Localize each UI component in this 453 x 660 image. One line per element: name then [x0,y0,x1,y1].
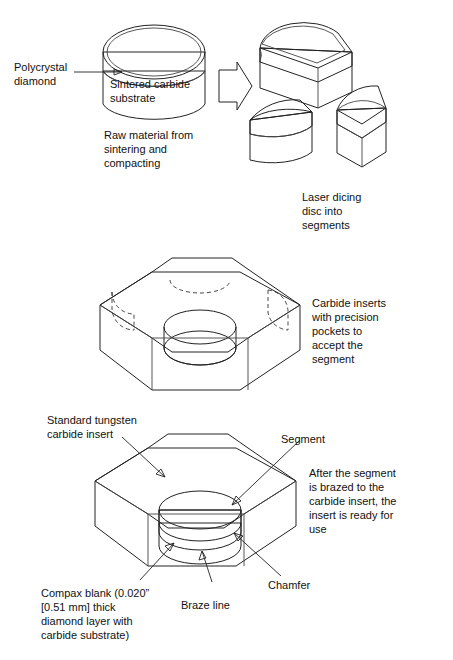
insert-pocket-wall [164,327,236,365]
label-polycrystal-diamond: Polycrystal diamond [14,60,98,88]
carbide-insert-with-pocket [100,258,300,390]
segment-left-top-face [250,100,312,120]
label-chamfer: Chamfer [268,578,338,592]
process-arrow-icon [219,62,252,110]
label-braze-line: Braze line [181,598,261,612]
segment-left-diamond-band [250,112,312,137]
label-compax-blank: Compax blank (0.020” [0.51 mm] thick dia… [41,586,181,642]
segment-left-divider [250,126,312,137]
segment-right-divider [337,122,386,138]
segment-back-top-face [260,23,352,68]
label-carbide-inserts: Carbide inserts with precision pockets t… [312,296,422,366]
leader-chamfer [234,533,281,576]
insert-hidden-pocket-right [268,290,288,330]
brazed-insert-body [95,448,296,566]
diced-segment-back [260,23,352,108]
label-sintered-carbide-substrate: Sintered carbide substrate [110,77,210,105]
brazed-insert [95,434,296,566]
process-diagram: Polycrystal diamond Sintered carbide sub… [0,0,453,660]
leader-compax-blank [140,543,174,580]
insert-pocket-floor [164,331,236,365]
insert-pocket-opening [164,310,236,344]
diced-segment-right [337,86,386,167]
label-standard-tungsten-carbide-insert: Standard tungsten carbide insert [47,413,177,441]
leader-standard-tungsten [122,437,165,477]
diced-segment-left [250,100,312,163]
segment-back-top-shade [262,26,345,63]
insert-hidden-pocket-back [170,280,230,293]
leader-segment [232,440,300,505]
segment-side [159,510,241,541]
segment-left-body [250,112,312,163]
label-laser-dicing: Laser dicing disc into segments [302,190,392,232]
label-after-segment-brazed: After the segment is brazed to the carbi… [309,466,439,536]
label-raw-material: Raw material from sintering and compacti… [104,128,224,170]
label-segment: Segment [281,432,351,446]
